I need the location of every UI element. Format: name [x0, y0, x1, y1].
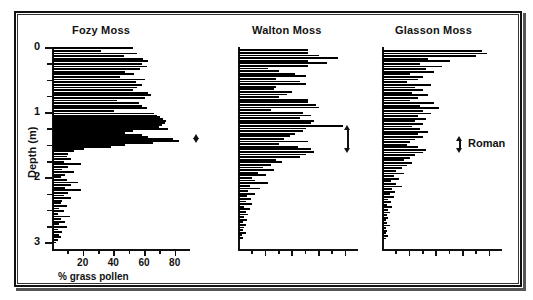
pollen-bar	[239, 164, 271, 166]
period-range-arrow	[344, 125, 352, 152]
pollen-bar	[53, 94, 151, 96]
x-tick-minor	[67, 250, 69, 254]
x-tick-label: 40	[100, 257, 126, 268]
x-tick-minor	[449, 250, 451, 254]
pollen-bar	[239, 172, 258, 174]
x-tick-major	[175, 250, 177, 256]
pollen-bar	[383, 87, 415, 89]
x-tick-label: 60	[131, 257, 157, 268]
pollen-bar	[239, 81, 300, 83]
pollen-bar	[239, 138, 284, 140]
arrow-down-icon	[344, 148, 350, 153]
x-tick-major	[489, 250, 491, 256]
pollen-bar	[53, 68, 140, 70]
x-axis-title: % grass pollen	[58, 271, 129, 282]
x-tick-minor	[305, 250, 307, 254]
x-tick-minor	[98, 250, 100, 254]
pollen-bar	[239, 216, 244, 218]
x-tick-minor	[278, 250, 280, 254]
pollen-bar	[239, 198, 251, 200]
pollen-bar	[383, 152, 423, 154]
x-tick-major	[409, 250, 411, 256]
pollen-bar	[53, 73, 134, 75]
pollen-bar	[383, 79, 418, 81]
pollen-bar	[239, 174, 266, 176]
pollen-bar	[53, 202, 61, 204]
pollen-bar	[383, 206, 392, 208]
pollen-bar	[239, 62, 327, 64]
pollen-bar	[53, 110, 114, 112]
x-tick-minor	[395, 250, 397, 254]
pollen-bar	[53, 242, 56, 244]
pollen-bar	[383, 144, 407, 146]
pollen-bar	[239, 229, 243, 231]
pollen-bar	[239, 68, 268, 70]
pollen-bar	[239, 188, 260, 190]
pollen-bar	[383, 92, 412, 94]
pollen-bar	[53, 100, 117, 102]
y-tick-minor	[47, 63, 52, 65]
pollen-diagram-figure: Depth (m) % grass pollen Fozy Moss012320…	[0, 0, 533, 300]
pollen-bar	[239, 133, 295, 135]
x-axis-line	[52, 249, 190, 251]
pollen-bar	[383, 178, 399, 180]
pollen-bar	[383, 238, 386, 240]
pollen-bar	[239, 148, 311, 150]
pollen-bar	[239, 60, 308, 62]
pollen-bar	[383, 141, 410, 143]
pollen-bar	[239, 151, 314, 153]
pollen-bar	[239, 180, 255, 182]
pollen-bar	[383, 50, 482, 52]
pollen-bar	[53, 208, 59, 210]
pollen-bar	[239, 86, 276, 88]
pollen-bar	[239, 115, 311, 117]
pollen-bar	[383, 94, 428, 96]
pollen-bar	[383, 89, 423, 91]
pollen-bar	[239, 195, 247, 197]
x-tick-major	[265, 250, 267, 256]
y-tick-major	[45, 112, 52, 114]
pollen-bar	[53, 179, 67, 181]
pollen-bar	[239, 208, 250, 210]
pollen-bar	[383, 212, 390, 214]
pollen-bar	[239, 88, 274, 90]
pollen-bar	[239, 221, 243, 223]
pollen-bar	[53, 229, 58, 231]
x-tick-label: 20	[70, 257, 96, 268]
pollen-bar	[383, 105, 420, 107]
pollen-bar	[53, 226, 67, 228]
pollen-bar	[239, 143, 279, 145]
pollen-bar	[53, 187, 65, 189]
pollen-bar	[53, 174, 65, 176]
pollen-bar	[383, 126, 412, 128]
pollen-bar	[383, 97, 418, 99]
pollen-bar	[239, 190, 248, 192]
pollen-bar	[239, 182, 268, 184]
pollen-bar	[383, 232, 386, 234]
pollen-bar	[239, 211, 246, 213]
pollen-bar	[53, 153, 68, 155]
pollen-bar	[239, 232, 246, 234]
pollen-bar	[239, 101, 308, 103]
y-tick-label: 0	[20, 40, 40, 52]
pollen-bar	[383, 219, 386, 221]
x-tick-minor	[422, 250, 424, 254]
x-tick-major	[435, 250, 437, 256]
pollen-bar	[383, 128, 420, 130]
pollen-bar	[383, 180, 391, 182]
pollen-bar	[239, 125, 343, 127]
x-axis-line	[382, 249, 502, 251]
pollen-bar	[53, 234, 59, 236]
pollen-bar	[53, 161, 64, 163]
pollen-bar	[383, 63, 420, 65]
pollen-bar	[239, 49, 308, 51]
y-tick-minor	[47, 80, 52, 82]
period-range-arrow	[193, 134, 201, 143]
pollen-bar	[53, 197, 71, 199]
pollen-bar	[383, 217, 388, 219]
pollen-bar	[383, 66, 442, 68]
pollen-bar	[53, 213, 58, 215]
pollen-bar	[383, 115, 418, 117]
pollen-bar	[383, 170, 396, 172]
x-tick-major	[83, 250, 85, 256]
